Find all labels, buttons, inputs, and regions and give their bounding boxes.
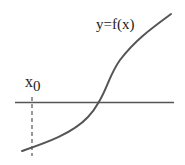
- x0-label-base: x: [25, 73, 33, 90]
- graph-canvas: y=f(x) x0: [0, 0, 185, 165]
- x0-label-subscript: 0: [33, 78, 41, 94]
- function-curve: [22, 14, 171, 151]
- function-graph-figure: y=f(x) x0: [0, 0, 185, 165]
- x0-label: x0: [25, 73, 41, 94]
- function-label: y=f(x): [96, 16, 134, 33]
